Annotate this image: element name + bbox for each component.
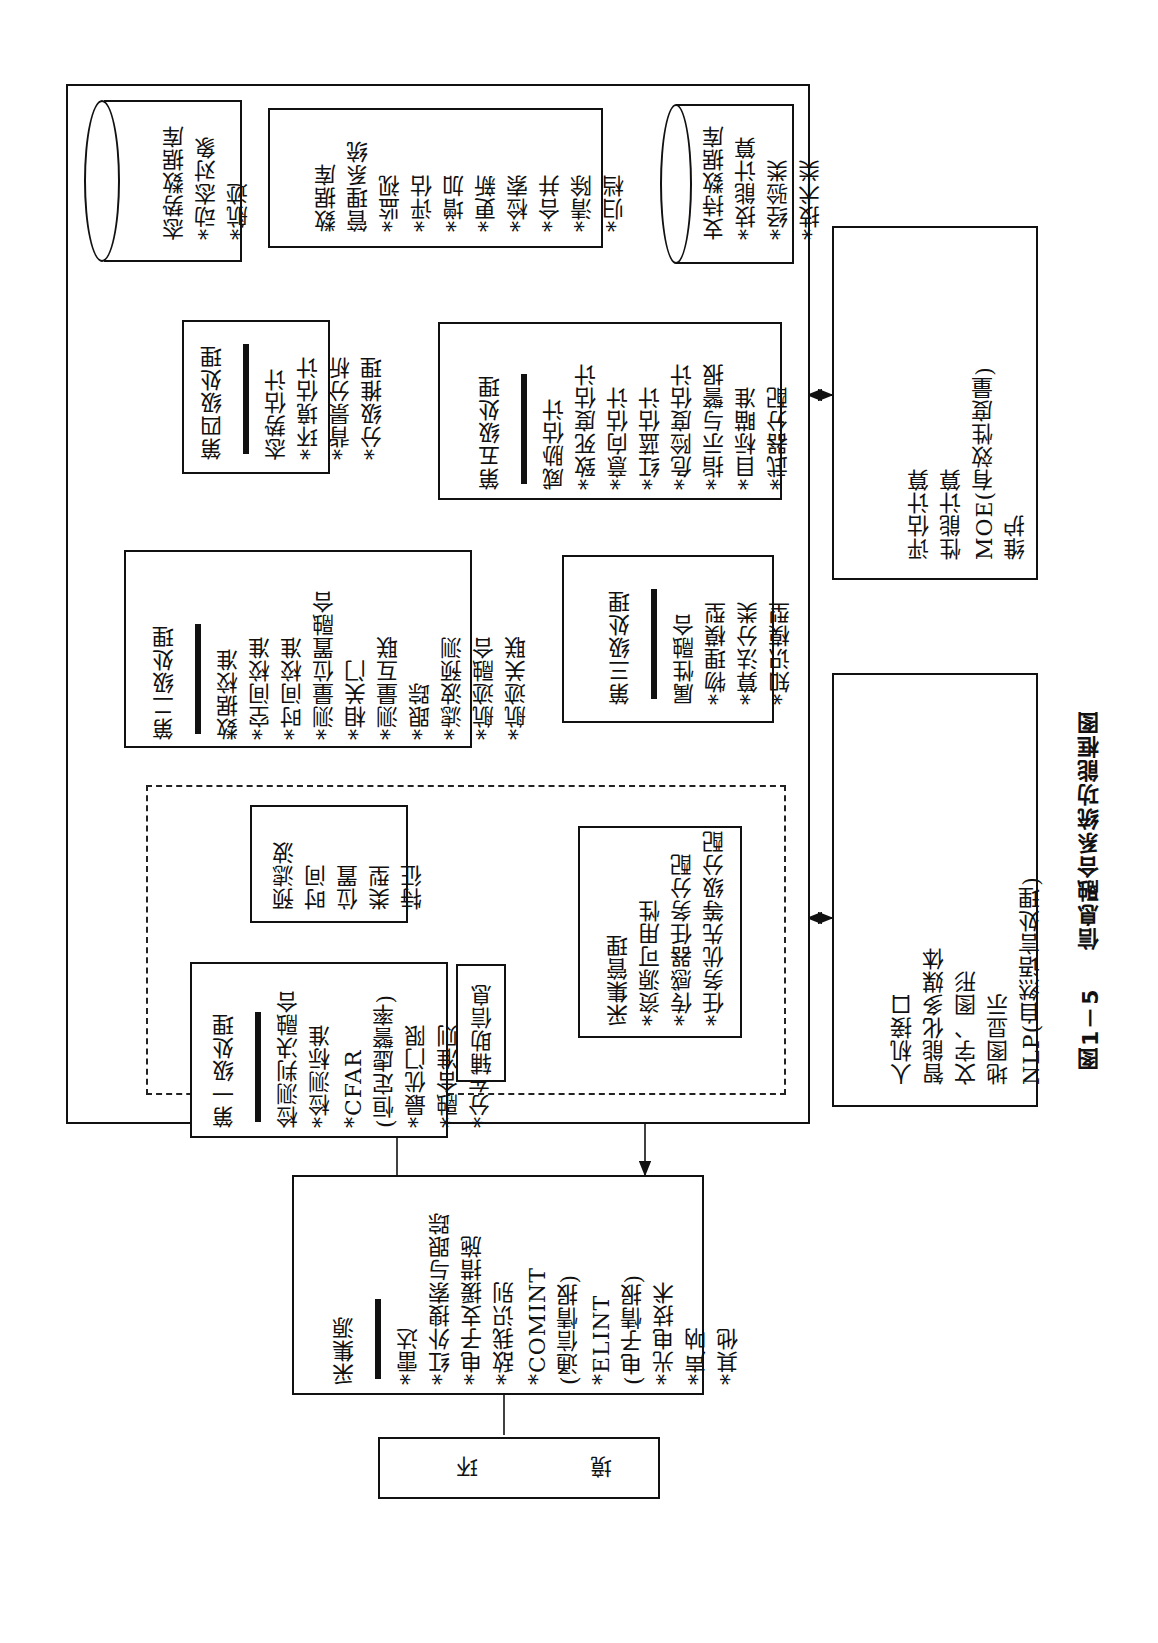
prefilter-title: 预滤波 [270, 820, 302, 910]
title-underline [255, 1012, 261, 1122]
level1-item: *最优门限 [402, 980, 434, 1128]
situation-database-text: 态势数据库 *动态对象 *航迹 [160, 140, 256, 240]
collection-sources-text: 采集源 *雷达 *红外搜索与跟踪 *电子支援措施 *敌我识别 *COMINT (… [330, 1195, 746, 1385]
collection-mgmt-item: *传感器任务分配 [668, 846, 700, 1026]
title-underline [375, 1299, 381, 1379]
evaluation-text: 评估计算 性能计算 MOE(有效性度量) 维护 [905, 270, 1033, 560]
level2-item: *测量位置融合 [310, 570, 342, 740]
level5-item: *致死度估计 [572, 345, 604, 490]
level2-item: *时间校准 [278, 570, 310, 740]
sources-item: *雷达 [394, 1195, 426, 1385]
evaluation-item: MOE(有效性度量) [969, 270, 1001, 560]
evaluation-item: 性能计算 [937, 270, 969, 560]
environment-char: 境 [588, 1455, 620, 1478]
situation-db-item: *动态对象 [192, 140, 224, 240]
level4-text: 第四级处理 态势估计 *环境估计 *背景分析 *分级推理 [198, 340, 390, 460]
level3-item: *算法分类 [734, 575, 766, 705]
prefilter-item: 位置 [334, 820, 366, 910]
level5-text: 第五级处理 威胁估计 *致死度估计 *意向估计 *红蓝估计 *危险度估计 *指示… [476, 345, 796, 490]
level2-item: 数据校准 [214, 570, 246, 740]
support-db-item: *技术类 [796, 130, 828, 240]
dbms-item: *更新 [472, 132, 504, 232]
level4-item: *环境估计 [294, 340, 326, 460]
level3-text: 第三级处理 属性融合 *物理模型 *算法分类 *知识模型 [606, 575, 798, 705]
prefilter-item: 时间 [302, 820, 334, 910]
level2-item: *航迹关联 [502, 570, 534, 740]
figure-caption: 图1－5 信息融合系统功能框图 [1075, 700, 1107, 1070]
figure-caption-label: 图1－5 [1078, 987, 1103, 1070]
sources-item: (通信情报) [554, 1195, 586, 1385]
level3-title: 第三级处理 [606, 575, 638, 705]
title-underline [521, 374, 527, 484]
level5-title: 第五级处理 [476, 345, 508, 490]
level5-item: 威胁估计 [540, 345, 572, 490]
sources-item: *红外搜索与跟踪 [426, 1195, 458, 1385]
level1-text: 第一级处理 检测判决融合 *检测标准 *CFAR (恒定虚警率) *最优门限 *… [210, 980, 498, 1128]
level3-item: *知识模型 [766, 575, 798, 705]
hmi-item: 地图显示 [984, 820, 1016, 1085]
level3-item: 属性融合 [670, 575, 702, 705]
level1-item: 检测判决融合 [274, 980, 306, 1128]
dbms-item: *监视 [376, 132, 408, 232]
collection-mgmt-item: *任务优先等级分配 [700, 846, 732, 1026]
support-db-item: *技能计算 [732, 130, 764, 240]
evaluation-item: 维护 [1001, 270, 1033, 560]
level4-item: 态势估计 [262, 340, 294, 460]
title-underline [243, 344, 249, 454]
level5-item: *指示与警报 [700, 345, 732, 490]
dbms-item: *清除 [568, 132, 600, 232]
level2-item: *相关门 [342, 570, 374, 740]
evaluation-item: 评估计算 [905, 270, 937, 560]
support-db-item: *经验类 [764, 130, 796, 240]
sources-item: *其他 [714, 1195, 746, 1385]
sources-item: *声呐 [682, 1195, 714, 1385]
title-underline [195, 624, 201, 734]
environment-char: 环 [454, 1455, 486, 1478]
sources-item: *ELINT [586, 1195, 618, 1385]
prefilter-text: 预滤波 时间 位置 类型 特征 [270, 820, 430, 910]
sources-item: (电子情报) [618, 1195, 650, 1385]
sources-item: *敌我识别 [490, 1195, 522, 1385]
prefilter-item: 类型 [366, 820, 398, 910]
level4-item: *分级推理 [358, 340, 390, 460]
dbms-title: 管理系统 [344, 132, 376, 232]
prefilter-item: 特征 [398, 820, 430, 910]
title-underline [651, 589, 657, 699]
level1-item: *CFAR [338, 980, 370, 1128]
level1-item: *检测标准 [306, 980, 338, 1128]
level2-text: 第二级处理 数据校准 *空间校准 *时间校准 *测量位置融合 *相关门 *测量互… [150, 570, 534, 740]
dbms-text: 数据库 管理系统 *监视 *评估 *增加 *更新 *检索 *合并 *清除 *归档 [312, 132, 632, 232]
level2-item: *跟踪 [406, 570, 438, 740]
hmi-item: 文字、图形 [952, 820, 984, 1085]
hmi-text: 人机接口 智能化多媒体 文字、图形 地图显示 NLP(自然语言处理) [888, 820, 1048, 1085]
level4-item: *背景分析 [326, 340, 358, 460]
sources-title: 采集源 [330, 1195, 362, 1385]
dbms-item: *归档 [600, 132, 632, 232]
dbms-item: *评估 [408, 132, 440, 232]
level1-item: (恒定虚警率) [370, 980, 402, 1128]
support-db-title: 支持数据库 [700, 130, 732, 240]
level2-title: 第二级处理 [150, 570, 182, 740]
support-database-text: 支持数据库 *技能计算 *经验类 *技术类 [700, 130, 828, 240]
level2-item: *空间校准 [246, 570, 278, 740]
situation-db-title: 态势数据库 [160, 140, 192, 240]
collection-mgmt-item: *资源可用性 [636, 846, 668, 1026]
level1-title: 第一级处理 [210, 980, 242, 1128]
dbms-title: 数据库 [312, 132, 344, 232]
level2-item: *滤波预测 [438, 570, 470, 740]
dbms-item: *检索 [504, 132, 536, 232]
level4-title: 第四级处理 [198, 340, 230, 460]
collection-management-text: 采集管理 *资源可用性 *传感器任务分配 *任务优先等级分配 [604, 846, 732, 1026]
hmi-item: 智能化多媒体 [920, 820, 952, 1085]
dbms-item: *合并 [536, 132, 568, 232]
collection-mgmt-title: 采集管理 [604, 846, 636, 1026]
sources-item: *电子支援措施 [458, 1195, 490, 1385]
level3-item: *物理模型 [702, 575, 734, 705]
level5-item: *意向估计 [604, 345, 636, 490]
situation-database-cylinder-cap [84, 100, 120, 262]
hmi-item: NLP(自然语言处理) [1016, 820, 1048, 1085]
auxiliary-info-label: 辅助信息 [468, 985, 500, 1075]
level5-item: *武器分配 [764, 345, 796, 490]
level5-item: *危险度估计 [668, 345, 700, 490]
dbms-item: *增加 [440, 132, 472, 232]
